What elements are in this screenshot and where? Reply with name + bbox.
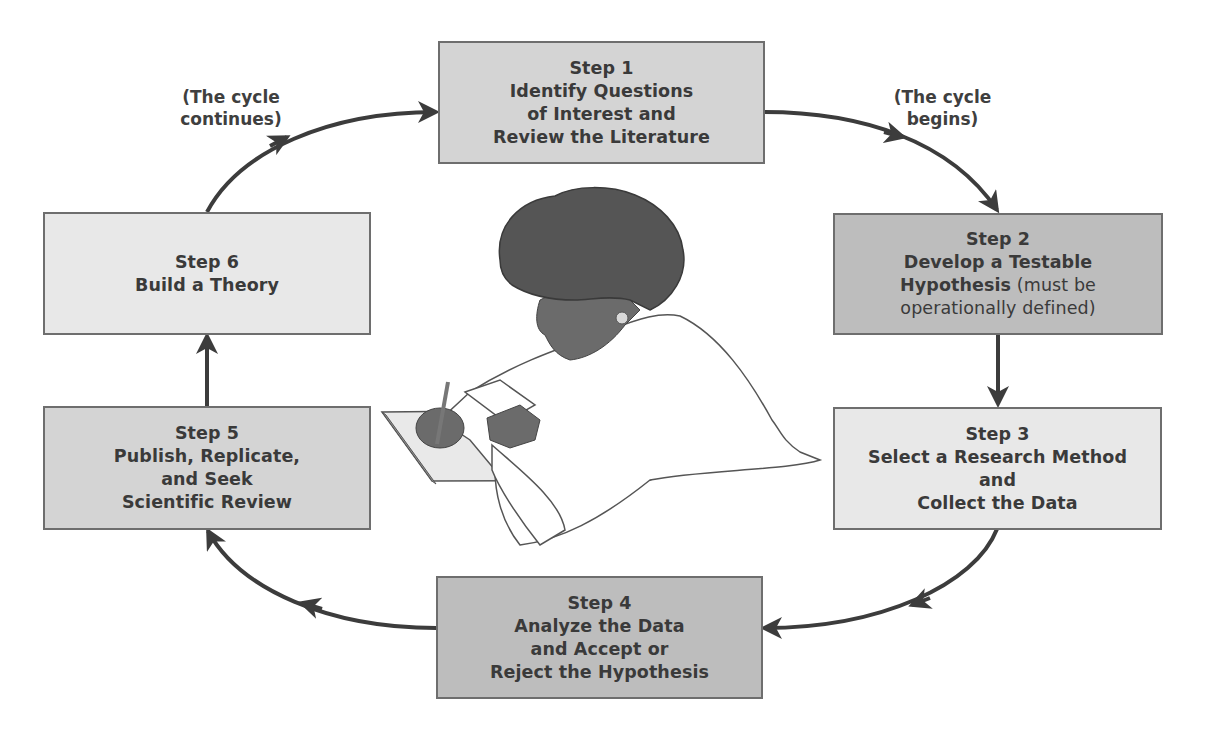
step5-title: Step 5 [175,422,239,445]
cycle-continues-label: (The cycle continues) [156,86,306,130]
step1-box: Step 1 Identify Questions of Interest an… [438,41,765,164]
step2-line2: Hypothesis (must be [900,274,1096,297]
step3-box: Step 3 Select a Research Method and Coll… [833,407,1162,530]
step2-title: Step 2 [966,228,1030,251]
step4-line2: and Accept or [531,638,669,661]
cycle-continues-line1: (The cycle [156,86,306,108]
step5-box: Step 5 Publish, Replicate, and Seek Scie… [43,406,371,530]
step2-hypothesis: Hypothesis [900,275,1011,295]
arrow-step3-to-step4 [764,529,997,628]
earring [616,312,628,324]
step3-line3: Collect the Data [917,492,1077,515]
step3-line1: Select a Research Method [868,446,1127,469]
step3-title: Step 3 [965,423,1029,446]
step2-box: Step 2 Develop a Testable Hypothesis (mu… [833,213,1163,335]
step4-title: Step 4 [567,592,631,615]
arrow-step4-to-step5 [208,531,436,628]
person-writing-illustration [382,188,820,545]
step1-title: Step 1 [569,57,633,80]
cycle-begins-line2: begins) [880,108,1005,130]
step6-box: Step 6 Build a Theory [43,212,371,335]
step6-line1: Build a Theory [135,274,279,297]
step2-line1: Develop a Testable [904,251,1092,274]
step6-title: Step 6 [175,251,239,274]
step5-line3: Scientific Review [122,491,292,514]
step1-line2: of Interest and [527,103,676,126]
step2-line3: operationally defined) [900,297,1095,320]
step4-line1: Analyze the Data [514,615,684,638]
step3-line2: and [979,469,1016,492]
step2-must-be: (must be [1011,275,1096,295]
cycle-begins-line1: (The cycle [880,86,1005,108]
step5-line1: Publish, Replicate, [114,445,300,468]
cycle-begins-label: (The cycle begins) [880,86,1005,130]
step1-line1: Identify Questions [510,80,694,103]
step4-line3: Reject the Hypothesis [490,661,709,684]
step4-box: Step 4 Analyze the Data and Accept or Re… [436,576,763,699]
step1-line3: Review the Literature [493,126,710,149]
step5-line2: and Seek [161,468,253,491]
hair [499,188,684,310]
cycle-continues-line2: continues) [156,108,306,130]
